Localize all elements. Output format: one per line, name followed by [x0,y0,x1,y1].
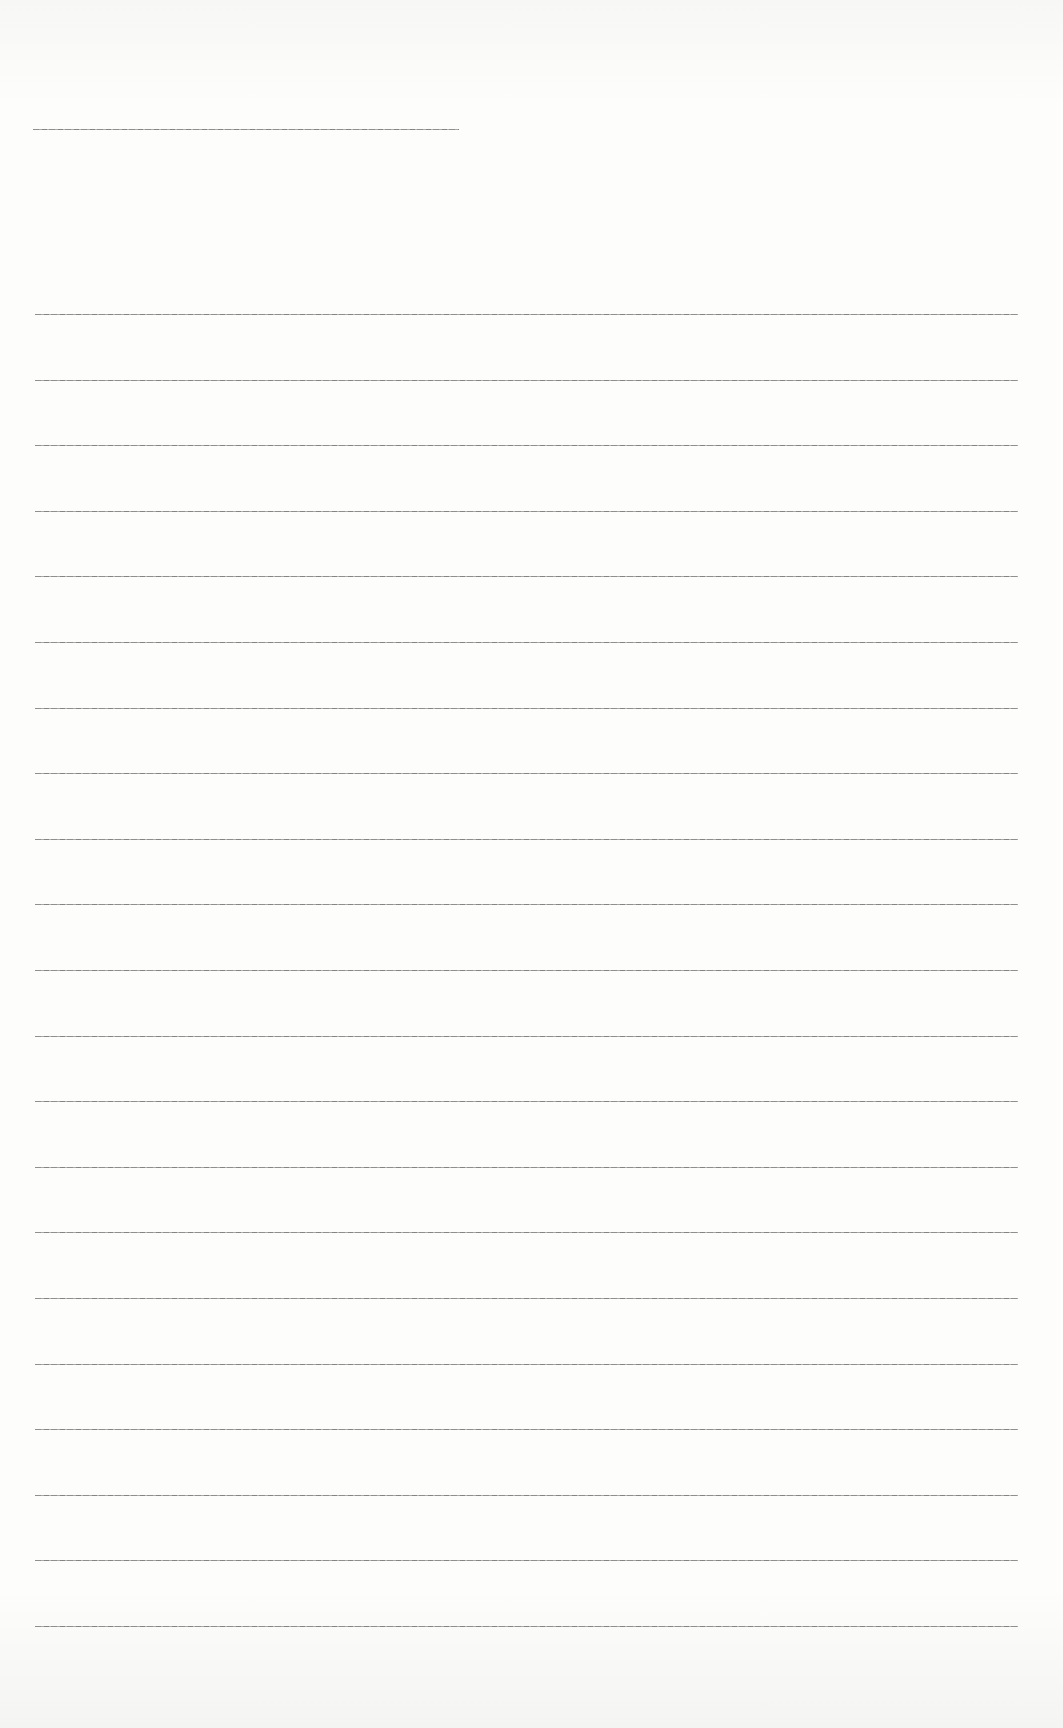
ruled-line [35,1036,1018,1037]
ruled-line [35,445,1018,446]
ruled-line [35,904,1018,905]
header-title-line [33,129,459,130]
ruled-line [35,511,1018,512]
ruled-line [35,1364,1018,1365]
ruled-line [35,1298,1018,1299]
ruled-line [35,1626,1018,1627]
scanned-page [0,0,1063,1728]
ruled-line [35,380,1018,381]
ruled-line [35,839,1018,840]
ruled-line [35,1495,1018,1496]
ruled-line [35,1101,1018,1102]
ruled-line [35,1429,1018,1430]
ruled-line [35,1560,1018,1561]
ruled-line [35,576,1018,577]
ruled-line [35,773,1018,774]
ruled-line [35,1232,1018,1233]
ruled-line [35,970,1018,971]
ruled-line [35,642,1018,643]
ruled-line [35,1167,1018,1168]
ruled-line [35,708,1018,709]
ruled-line [35,314,1018,315]
